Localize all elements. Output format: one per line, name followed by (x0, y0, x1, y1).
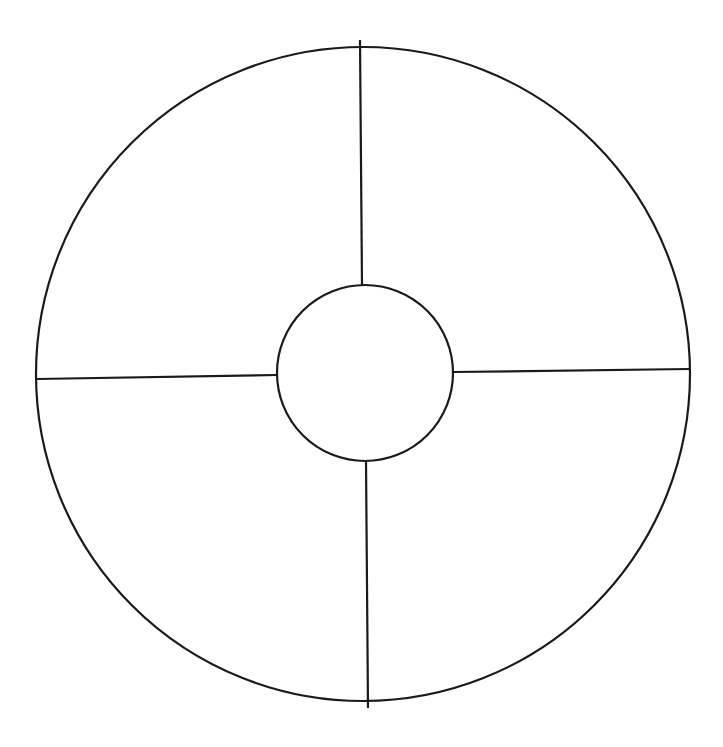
divider-left (37, 375, 277, 379)
divider-right (453, 369, 689, 372)
divider-top (360, 40, 362, 285)
inner-circle (277, 285, 453, 461)
divider-bottom (366, 461, 368, 708)
quadrant-wheel-diagram (0, 0, 723, 747)
